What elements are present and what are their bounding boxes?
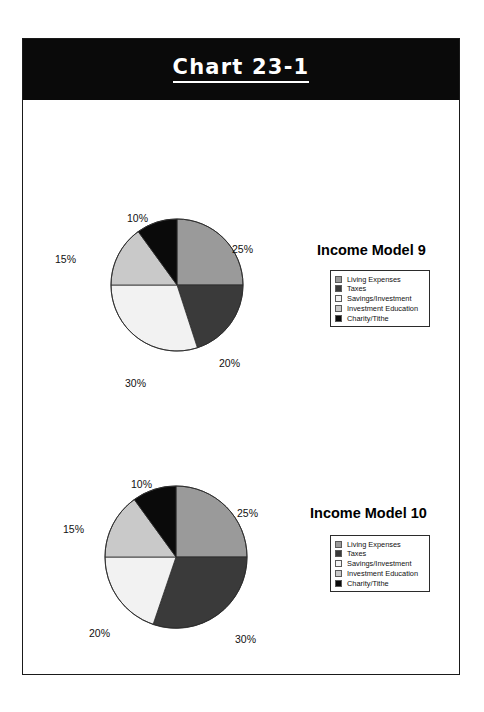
legend-income-model-9: Living Expenses Taxes Savings/Investment… [330,270,430,327]
legend-label-living-expenses: Living Expenses [347,275,401,284]
legend-label-investment-education: Investment Education [347,304,418,313]
legend-swatch-investment-education-icon [335,305,342,312]
page-title: Chart 23-1 [23,55,459,79]
legend-swatch-living-expenses-icon [335,541,342,548]
legend-swatch-taxes-icon [335,285,342,292]
pct-label-taxes-1: 20% [219,357,240,369]
header-band: Chart 23-1 [23,39,459,100]
legend-label-living-expenses: Living Expenses [347,540,401,549]
legend-item-living-expenses: Living Expenses [335,274,424,283]
pct-label-savings-investment-2: 20% [89,627,110,639]
legend-item-investment-education: Investment Education [335,569,424,578]
legend-label-savings-investment: Savings/Investment [347,559,412,568]
legend-item-charity-tithe: Charity/Tithe [335,579,424,588]
legend-item-living-expenses: Living Expenses [335,539,424,548]
chart-title-income-model-9: Income Model 9 [317,242,426,258]
legend-label-taxes: Taxes [347,549,366,558]
legend-item-taxes: Taxes [335,549,424,558]
legend-income-model-10: Living Expenses Taxes Savings/Investment… [330,535,430,592]
pct-label-living-expenses-1: 25% [232,243,253,255]
chart-page: Chart 23-1 25% 20% 30% 15% 10% [22,38,460,675]
legend-swatch-investment-education-icon [335,570,342,577]
pct-label-charity-tithe-2: 10% [131,478,152,490]
legend-swatch-taxes-icon [335,550,342,557]
pct-label-investment-education-2: 15% [63,523,84,535]
legend-label-taxes: Taxes [347,284,366,293]
chart-title-income-model-10: Income Model 10 [310,505,427,521]
legend-swatch-charity-tithe-icon [335,580,342,587]
legend-item-savings-investment: Savings/Investment [335,559,424,568]
legend-label-charity-tithe: Charity/Tithe [347,579,389,588]
pie-chart-income-model-10 [101,482,251,632]
pct-label-savings-investment-1: 30% [125,377,146,389]
legend-item-investment-education: Investment Education [335,304,424,313]
page-title-text: Chart 23-1 [173,55,310,83]
legend-item-savings-investment: Savings/Investment [335,294,424,303]
legend-swatch-savings-investment-icon [335,295,342,302]
legend-swatch-living-expenses-icon [335,276,342,283]
legend-swatch-savings-investment-icon [335,560,342,567]
pie-slice-living-expenses [176,486,247,557]
pie-chart-income-model-9 [107,215,247,355]
pct-label-taxes-2: 30% [235,633,256,645]
legend-label-investment-education: Investment Education [347,569,418,578]
pie-svg-2 [101,482,251,632]
legend-label-savings-investment: Savings/Investment [347,294,412,303]
pct-label-investment-education-1: 15% [55,253,76,265]
pct-label-living-expenses-2: 25% [237,507,258,519]
pie-svg-1 [107,215,247,355]
legend-swatch-charity-tithe-icon [335,315,342,322]
pct-label-charity-tithe-1: 10% [127,212,148,224]
legend-item-taxes: Taxes [335,284,424,293]
legend-item-charity-tithe: Charity/Tithe [335,314,424,323]
legend-label-charity-tithe: Charity/Tithe [347,314,389,323]
